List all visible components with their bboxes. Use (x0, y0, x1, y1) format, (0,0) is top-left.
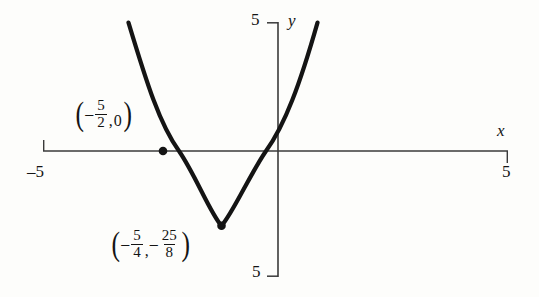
vertex-comma: , (145, 243, 149, 261)
x-axis-label: x (497, 122, 505, 139)
vertex-y-denominator: 8 (164, 244, 176, 261)
root-point-marker (159, 147, 168, 156)
vertex-close-paren: ) (181, 230, 189, 259)
vertex-x-minus-sign: – (121, 236, 129, 252)
x-max-tick-label: 5 (502, 163, 511, 180)
vertex-x-denominator: 4 (131, 244, 143, 261)
root-denominator: 2 (95, 114, 107, 131)
parabola-figure: y x 5 5 –5 5 ( – 5 2 , 0 ) ( – 5 4 , – 2… (0, 0, 539, 297)
vertex-x-fraction: 5 4 (131, 228, 143, 261)
y-min-tick-label: 5 (252, 263, 261, 280)
root-fraction: 5 2 (95, 98, 107, 131)
vertex-open-paren: ( (111, 230, 119, 259)
vertex-y-minus-sign: – (150, 236, 158, 252)
parabola-curve (129, 23, 318, 226)
graph-canvas (0, 0, 539, 297)
root-open-paren: ( (75, 100, 83, 129)
vertex-point-marker (217, 222, 226, 231)
vertex-y-numerator: 25 (160, 228, 179, 244)
y-max-tick-label: 5 (251, 11, 260, 28)
y-axis-label: y (288, 12, 296, 29)
root-close-paren: ) (123, 100, 131, 129)
vertex-coordinate-label: ( – 5 4 , – 25 8 ) (110, 228, 191, 261)
root-comma: , (109, 113, 113, 131)
root-numerator: 5 (95, 98, 107, 114)
root-minus-sign: – (85, 106, 93, 122)
vertex-x-numerator: 5 (131, 228, 143, 244)
x-axis (43, 140, 508, 163)
vertex-y-fraction: 25 8 (160, 228, 179, 261)
x-min-tick-label: –5 (27, 163, 44, 180)
root-coordinate-label: ( – 5 2 , 0 ) (74, 98, 133, 131)
root-y-value: 0 (114, 113, 122, 131)
